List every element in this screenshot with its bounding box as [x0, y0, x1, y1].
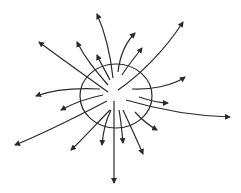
- field-line-arrow-icon: [36, 89, 100, 96]
- field-lines-group: [15, 14, 230, 183]
- field-line-arrow-icon: [139, 97, 168, 103]
- field-line-arrow-icon: [39, 42, 108, 92]
- field-line-arrow-icon: [77, 42, 108, 85]
- field-line-arrow-icon: [119, 110, 123, 143]
- field-lines-diagram: [0, 0, 241, 193]
- field-line-arrow-icon: [97, 14, 113, 78]
- field-line-arrow-icon: [118, 33, 135, 72]
- field-line-arrow-icon: [15, 101, 107, 145]
- field-line-arrow-icon: [118, 22, 183, 90]
- field-line-arrow-icon: [132, 77, 185, 89]
- field-line-arrow-icon: [126, 100, 230, 117]
